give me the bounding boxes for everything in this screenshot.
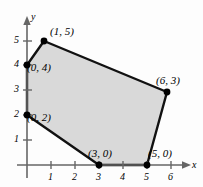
vertex-label-3-0: (3, 0) — [88, 148, 112, 159]
vertex-label-6-3: (6, 3) — [156, 75, 180, 86]
y-tick-label-1: 1 — [14, 134, 19, 144]
x-tick-label-5: 5 — [144, 172, 149, 182]
x-tick-label-2: 2 — [72, 172, 77, 182]
y-tick-label-5: 5 — [14, 35, 19, 45]
vertex-dot-1-5 — [41, 38, 48, 45]
y-tick-label-4: 4 — [14, 59, 19, 69]
vertex-dot-5-0 — [144, 162, 151, 169]
vertex-dot-3-0 — [96, 162, 103, 169]
x-axis-arrowhead — [182, 161, 191, 168]
vertex-label-0-2: (0, 2) — [27, 112, 51, 123]
y-tick-label-3: 3 — [14, 84, 19, 94]
y-axis-label: y — [31, 12, 35, 22]
x-tick-label-3: 3 — [96, 172, 101, 182]
y-tick-label-2: 2 — [14, 109, 19, 119]
vertex-label-0-4: (0, 4) — [27, 62, 51, 73]
coordinate-plot-figure: y x 5 4 3 2 1 1 2 3 4 5 6 (1, 5) (0, 4) … — [0, 0, 203, 187]
x-tick-label-6: 6 — [168, 172, 173, 182]
x-tick-label-1: 1 — [48, 172, 53, 182]
y-axis-arrowhead — [23, 16, 30, 25]
x-tick-label-4: 4 — [120, 172, 125, 182]
vertex-dot-6-3 — [164, 89, 171, 96]
vertex-label-5-0: (5, 0) — [148, 148, 172, 159]
vertex-label-1-5: (1, 5) — [50, 26, 74, 37]
x-axis-label: x — [192, 160, 196, 170]
